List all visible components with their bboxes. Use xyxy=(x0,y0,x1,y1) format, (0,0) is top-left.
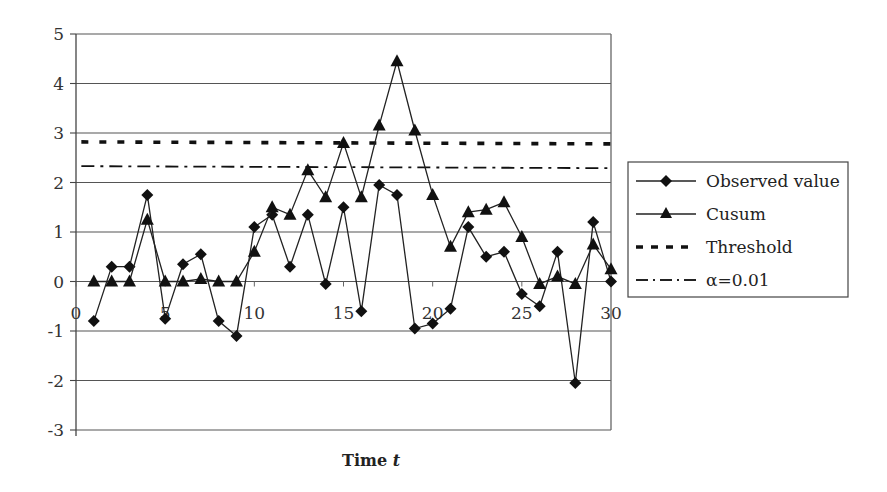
diamond-marker-icon xyxy=(516,288,528,300)
x-tick-label: 25 xyxy=(511,303,533,323)
diamond-marker-icon xyxy=(605,276,617,288)
x-tick-label: 10 xyxy=(244,303,266,323)
diamond-marker-icon xyxy=(587,216,599,228)
cusum-chart: 543210-1-2-3 051015202530 Time t Observe… xyxy=(0,0,887,492)
triangle-marker-icon xyxy=(426,188,439,200)
triangle-marker-icon xyxy=(373,119,386,131)
diamond-marker-icon xyxy=(284,261,296,273)
x-tick-label: 30 xyxy=(600,303,622,323)
triangle-marker-icon xyxy=(498,195,511,207)
diamond-marker-icon xyxy=(320,278,332,290)
y-tick-label: 3 xyxy=(53,123,64,143)
legend: Observed value Cusum Threshold α=0.01 xyxy=(628,162,848,297)
diamond-marker-icon xyxy=(480,251,492,263)
triangle-marker-icon xyxy=(408,124,421,136)
diamond-marker-icon xyxy=(302,209,314,221)
y-tick-label: 0 xyxy=(53,272,64,292)
triangle-marker-icon xyxy=(533,277,546,289)
cusum-series xyxy=(87,54,617,289)
y-tick-label: 2 xyxy=(53,173,64,193)
triangle-marker-icon xyxy=(319,190,332,202)
triangle-marker-icon xyxy=(159,275,172,287)
y-tick-label: -3 xyxy=(47,420,64,440)
diamond-marker-icon xyxy=(409,323,421,335)
triangle-marker-icon xyxy=(248,245,261,257)
y-tick-label: 4 xyxy=(53,74,64,94)
diamond-marker-icon xyxy=(391,189,403,201)
y-tick-label: 1 xyxy=(53,222,64,242)
triangle-marker-icon xyxy=(284,208,297,220)
triangle-marker-icon xyxy=(123,275,136,287)
triangle-marker-icon xyxy=(87,275,100,287)
triangle-marker-icon xyxy=(301,163,314,175)
diamond-marker-icon xyxy=(141,189,153,201)
diamond-marker-icon xyxy=(373,179,385,191)
diamond-marker-icon xyxy=(195,248,207,260)
triangle-marker-icon xyxy=(551,270,564,282)
x-tick-label: 0 xyxy=(71,303,82,323)
diamond-marker-icon xyxy=(569,377,581,389)
y-tick-label: 5 xyxy=(53,24,64,44)
diamond-marker-icon xyxy=(355,305,367,317)
diamond-marker-icon xyxy=(177,258,189,270)
data-series xyxy=(87,54,617,389)
x-tick-label: 15 xyxy=(333,303,355,323)
y-tick-label: -1 xyxy=(47,321,64,341)
triangle-marker-icon xyxy=(266,200,279,212)
triangle-marker-icon xyxy=(444,240,457,252)
legend-label-cusum: Cusum xyxy=(706,204,766,224)
x-axis-title-variable: t xyxy=(393,451,401,470)
diamond-marker-icon xyxy=(106,261,118,273)
x-axis-title: Time t xyxy=(342,451,401,470)
triangle-marker-icon xyxy=(391,54,404,66)
x-axis-title-text: Time xyxy=(342,451,393,470)
triangle-marker-icon xyxy=(480,203,493,215)
gridlines xyxy=(76,34,611,430)
diamond-marker-icon xyxy=(462,221,474,233)
legend-label-alpha: α=0.01 xyxy=(706,270,770,290)
diamond-marker-icon xyxy=(88,315,100,327)
triangle-marker-icon xyxy=(355,190,368,202)
legend-label-observed: Observed value xyxy=(706,171,840,191)
diamond-marker-icon xyxy=(498,246,510,258)
triangle-marker-icon xyxy=(230,275,243,287)
triangle-marker-icon xyxy=(569,277,582,289)
diamond-marker-icon xyxy=(552,246,564,258)
legend-label-threshold: Threshold xyxy=(706,237,793,257)
diamond-marker-icon xyxy=(338,201,350,213)
alpha-line xyxy=(81,166,611,168)
diamond-marker-icon xyxy=(534,300,546,312)
diamond-marker-icon xyxy=(248,221,260,233)
y-tick-label: -2 xyxy=(47,371,64,391)
